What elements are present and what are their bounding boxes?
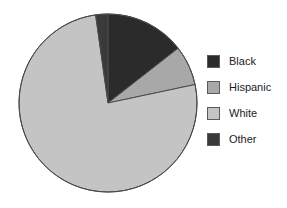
legend-label-hispanic: Hispanic	[229, 82, 271, 93]
legend-swatch-black	[207, 55, 220, 68]
pie-slice-group	[19, 14, 197, 192]
pie-chart-figure: Black Hispanic White Other	[0, 0, 287, 208]
legend-label-black: Black	[229, 56, 256, 67]
legend-item-white[interactable]: White	[207, 100, 287, 126]
legend-item-black[interactable]: Black	[207, 48, 287, 74]
chart-legend: Black Hispanic White Other	[207, 48, 287, 160]
legend-swatch-other	[207, 133, 220, 146]
pie-chart-plot-area	[0, 0, 205, 208]
legend-swatch-white	[207, 107, 220, 120]
legend-swatch-hispanic	[207, 81, 220, 94]
legend-item-hispanic[interactable]: Hispanic	[207, 74, 287, 100]
pie-chart-svg	[0, 0, 205, 208]
legend-label-white: White	[229, 108, 257, 119]
legend-label-other: Other	[229, 134, 257, 145]
legend-item-other[interactable]: Other	[207, 126, 287, 152]
